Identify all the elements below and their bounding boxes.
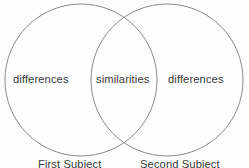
venn-subject-label-first: First Subject xyxy=(38,159,101,168)
venn-subject-label-second: Second Subject xyxy=(140,159,220,168)
venn-label-overlap-similarities: similarities xyxy=(96,74,149,85)
venn-diagram-figure: differences similarities differences Fir… xyxy=(0,0,249,168)
venn-label-right-differences: differences xyxy=(168,74,224,85)
venn-label-left-differences: differences xyxy=(13,74,69,85)
